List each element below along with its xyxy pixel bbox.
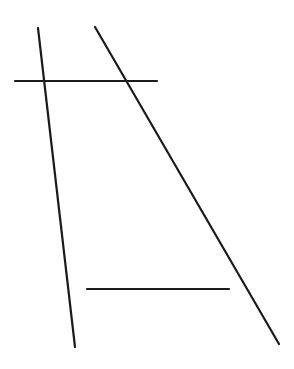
right-slanted-line [95, 27, 279, 344]
left-slanted-line [38, 28, 75, 347]
diagram-canvas [0, 0, 294, 369]
line-illusion-diagram [0, 0, 294, 369]
